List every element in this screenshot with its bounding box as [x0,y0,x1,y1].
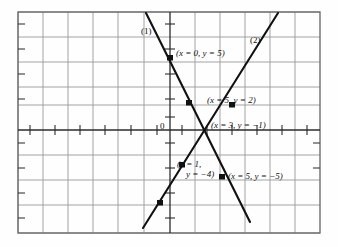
point-label-1-minus4-line2: y = −4) [177,170,214,180]
data-point-0-5 [167,55,173,61]
point-label-0-5: (x = 0, y = 5) [176,49,225,59]
point-label-5-2: (x = 5, y = 2) [207,96,256,106]
data-point-mid-1 [186,100,192,106]
data-point-5-m5 [219,174,225,180]
curve-label-2: (2) [250,36,261,46]
point-label-5-minus5: (x = 5, y = −5) [228,172,283,182]
curve-label-1: (1) [141,27,152,37]
point-label-3-minus1: (x = 3, y = −1) [211,121,266,131]
point-label-1-minus4: (x = 1, y = −4) [177,160,214,179]
grid-lines [18,12,320,233]
origin-label: 0 [160,122,165,132]
plot-frame [18,12,320,233]
coordinate-plane [0,0,338,247]
frame-edge-ticks [18,24,320,218]
data-point-low-2 [157,200,163,206]
series-line-1 [146,13,250,222]
graph-figure: 0 (1) (2) (x = 0, y = 5) (x = 5, y = 2) … [0,0,338,247]
axes [18,12,320,233]
